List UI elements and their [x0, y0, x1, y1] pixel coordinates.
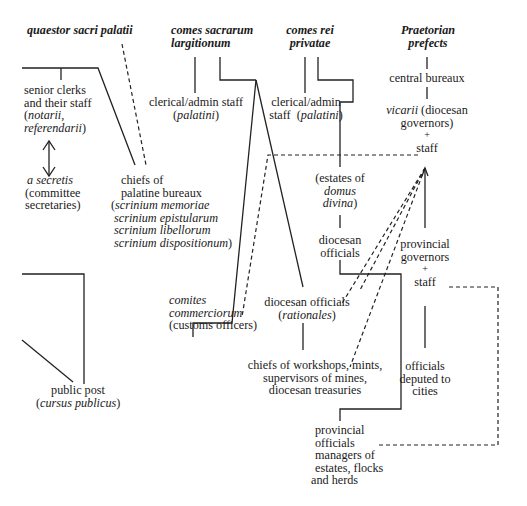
- double-arrow-icon: [43, 141, 55, 176]
- node-largitionum-clerical-staff: clerical/admin staff (palatini): [146, 96, 246, 121]
- public-post-bracket: [22, 274, 84, 384]
- imperial-administration-diagram: quaestor sacri palatii comes sacrarum la…: [0, 0, 527, 506]
- node-privatae-clerical-staff: clerical/admin staff (palatini): [268, 96, 344, 121]
- header-comes-rei-privatae: comes rei privatae: [272, 24, 348, 49]
- public-post-diagonal: [22, 340, 73, 382]
- node-senior-clerks: senior clerks and their staff (notarii, …: [24, 84, 91, 134]
- node-officials-deputed-cities: officials deputed to cities: [395, 360, 455, 398]
- node-a-secretis: a secretis (committee secretaries): [25, 174, 81, 212]
- node-public-post: public post (cursus publicus): [36, 384, 120, 409]
- node-chiefs-palatine-bureaux: chiefs of palatine bureaux (scrinium mem…: [111, 174, 232, 250]
- header-comes-sacrarum-largitionum: comes sacrarum largitionum: [171, 24, 253, 49]
- node-central-bureaux: central bureaux: [382, 72, 472, 85]
- node-provincial-officials-managers: provincial officials managers of estates…: [311, 424, 383, 487]
- header-praetorian-prefects: Praetorian prefects: [390, 24, 466, 49]
- node-estates-domus-divina: (estates of domus divina): [305, 172, 375, 210]
- quaestor-to-chiefs-dashed: [122, 44, 146, 165]
- largitionum-apex-line: [220, 57, 256, 80]
- node-comites-commerciorum: comites commerciorum (customs officers): [169, 294, 257, 332]
- header-quaestor: quaestor sacri palatii: [27, 24, 133, 37]
- node-privatae-diocesan-officials: diocesan officials: [310, 234, 370, 259]
- node-vicarii: vicarii (diocesan governors) + staff: [382, 104, 472, 154]
- node-diocesan-rationales: diocesan officials (rationales): [262, 296, 352, 321]
- node-chiefs-workshops: chiefs of workshops, mints, supervisors …: [245, 359, 385, 397]
- node-provincial-governors: provincial governors + staff: [395, 238, 455, 288]
